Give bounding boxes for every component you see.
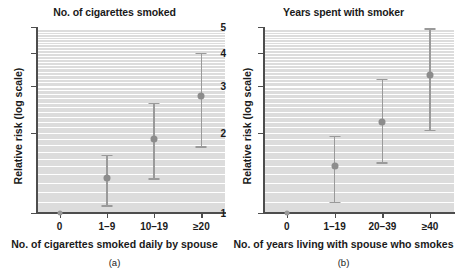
y-axis-tick — [31, 213, 36, 214]
minor-gridline — [263, 47, 454, 48]
error-bar-cap — [196, 146, 207, 147]
minor-gridline — [263, 65, 454, 66]
panel-b-y-axis — [263, 27, 265, 214]
panel-b-caption: (b) — [229, 257, 458, 268]
minor-gridline — [263, 59, 454, 60]
y-axis-tick — [31, 133, 36, 134]
minor-gridline — [263, 145, 454, 146]
minor-gridline — [263, 90, 454, 91]
panel-a-plot-area — [36, 27, 225, 213]
minor-gridline — [263, 166, 454, 167]
data-point-marker — [151, 135, 158, 142]
minor-gridline — [263, 94, 454, 95]
minor-gridline — [36, 122, 225, 123]
error-bar-cap — [329, 202, 340, 203]
y-axis-tick — [31, 86, 36, 87]
minor-gridline — [36, 34, 225, 35]
minor-gridline — [36, 37, 225, 38]
major-gridline — [263, 53, 454, 55]
major-gridline — [36, 27, 225, 29]
y-axis-tick — [258, 133, 263, 134]
minor-gridline — [263, 103, 454, 104]
minor-gridline — [263, 44, 454, 45]
x-axis-tick — [107, 213, 108, 218]
minor-gridline — [36, 79, 225, 80]
minor-gridline — [36, 152, 225, 153]
minor-gridline — [36, 42, 225, 43]
y-axis-tick — [258, 213, 263, 214]
major-gridline — [263, 86, 454, 88]
minor-gridline — [263, 62, 454, 63]
minor-gridline — [36, 65, 225, 66]
chart-panel-b: Years spent with smoker 12345 01–1920–39… — [229, 0, 458, 277]
minor-gridline — [263, 68, 454, 69]
minor-gridline — [263, 98, 454, 99]
minor-gridline — [36, 159, 225, 160]
y-axis-tick-label: 3 — [206, 81, 226, 92]
figure-relative-risk-charts: No. of cigarettes smoked 12345 01–910–19… — [0, 0, 458, 277]
minor-gridline — [263, 112, 454, 113]
error-bar-cap — [101, 205, 112, 206]
x-axis-tick — [382, 213, 383, 218]
x-axis-tick — [335, 213, 336, 218]
data-point-marker — [103, 175, 110, 182]
minor-gridline — [36, 166, 225, 167]
panel-b-plot-area — [263, 27, 454, 213]
minor-gridline — [36, 112, 225, 113]
minor-gridline — [263, 75, 454, 76]
minor-gridline — [36, 82, 225, 83]
x-axis-tick — [201, 213, 202, 218]
error-bar-cap — [149, 178, 160, 179]
minor-gridline — [36, 127, 225, 128]
error-bar-cap — [329, 136, 340, 137]
x-axis-tick-label: ≥20 — [173, 221, 229, 232]
panel-a-caption: (a) — [0, 257, 229, 268]
y-axis-tick-label: 1 — [206, 208, 226, 219]
major-gridline — [36, 133, 225, 135]
y-axis-tick-label: 4 — [206, 47, 226, 58]
x-axis-tick-label: ≥40 — [402, 221, 458, 232]
minor-gridline — [263, 72, 454, 73]
y-axis-tick — [258, 27, 263, 28]
major-gridline — [263, 133, 454, 135]
minor-gridline — [36, 39, 225, 40]
panel-b-y-axis-label: Relative risk (log scale) — [241, 46, 253, 206]
minor-gridline — [263, 79, 454, 80]
minor-gridline — [36, 90, 225, 91]
data-point-marker — [198, 93, 205, 100]
minor-gridline — [36, 47, 225, 48]
data-point-marker — [284, 211, 289, 216]
panel-b-x-axis — [263, 212, 455, 214]
minor-gridline — [36, 98, 225, 99]
minor-gridline — [263, 127, 454, 128]
error-bar-cap — [377, 79, 388, 80]
chart-panel-a: No. of cigarettes smoked 12345 01–910–19… — [0, 0, 229, 277]
data-point-marker — [427, 72, 434, 79]
y-axis-tick-label: 2 — [206, 127, 226, 138]
minor-gridline — [263, 34, 454, 35]
panel-b-x-axis-label: No. of years living with spouse who smok… — [229, 238, 458, 250]
y-axis-tick-label: 5 — [206, 22, 226, 33]
y-axis-tick — [258, 86, 263, 87]
y-axis-tick — [258, 53, 263, 54]
panel-a-y-axis — [36, 27, 38, 214]
minor-gridline — [36, 44, 225, 45]
y-axis-tick — [31, 53, 36, 54]
panel-a-y-axis-label: Relative risk (log scale) — [12, 46, 24, 206]
minor-gridline — [263, 122, 454, 123]
minor-gridline — [36, 103, 225, 104]
minor-gridline — [263, 82, 454, 83]
minor-gridline — [36, 68, 225, 69]
panel-a-title: No. of cigarettes smoked — [0, 6, 229, 18]
minor-gridline — [263, 42, 454, 43]
minor-gridline — [36, 107, 225, 108]
minor-gridline — [263, 50, 454, 51]
panel-a-x-axis-label: No. of cigarettes smoked daily by spouse — [0, 238, 229, 250]
minor-gridline — [36, 75, 225, 76]
minor-gridline — [263, 183, 454, 184]
minor-gridline — [263, 139, 454, 140]
minor-gridline — [263, 117, 454, 118]
minor-gridline — [36, 183, 225, 184]
minor-gridline — [36, 72, 225, 73]
data-point-marker — [379, 118, 386, 125]
